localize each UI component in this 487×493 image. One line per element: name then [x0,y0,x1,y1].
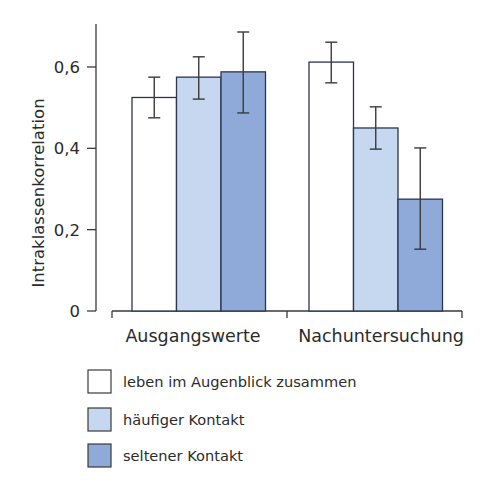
legend-label: seltener Kontakt [123,447,243,464]
legend-item-selten: seltener Kontakt [88,444,243,467]
category-label-ausgangswerte: Ausgangswerte [125,326,260,346]
legend: leben im Augenblick zusammen häufiger Ko… [88,370,356,467]
bar-chart: Intraklassenkorrelation 00,20,40,6 Ausga… [0,0,487,493]
legend-label: häufiger Kontakt [123,411,245,428]
legend-swatch-dark-blue [88,444,111,467]
bar [177,77,222,311]
bars [132,62,443,311]
legend-label: leben im Augenblick zusammen [123,373,356,390]
bar [309,62,354,311]
y-tick-label: 0,6 [54,58,80,77]
y-tick-label: 0,2 [54,221,80,240]
legend-swatch-white [88,370,111,393]
y-tick-label: 0,4 [54,139,80,158]
x-axis: Ausgangswerte Nachuntersuchung [112,311,464,346]
legend-item-haeufig: häufiger Kontakt [88,408,245,431]
bar [354,128,399,311]
y-axis-label: Intraklassenkorrelation [29,98,48,287]
bar [132,97,177,311]
y-axis-ticks: 00,20,40,6 [54,58,96,321]
y-tick-label: 0 [70,302,81,321]
category-label-nachuntersuchung: Nachuntersuchung [298,326,464,346]
legend-item-zusammen: leben im Augenblick zusammen [88,370,356,393]
legend-swatch-light-blue [88,408,111,431]
y-axis: 00,20,40,6 [54,24,96,321]
